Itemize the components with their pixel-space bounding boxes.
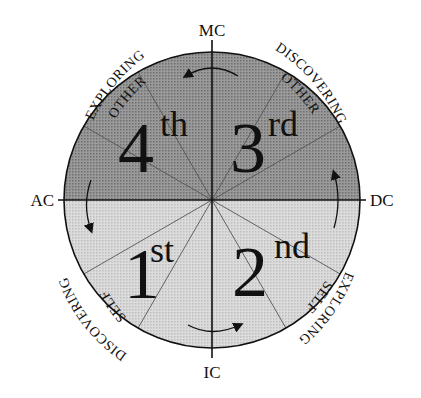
svg-text:2: 2 [232, 232, 268, 312]
axis-label-mc: MC [199, 21, 225, 40]
quadrant-wheel-diagram: MC IC AC DC 4 th 3 rd 1 st 2 nd EXPLORIN… [0, 0, 421, 398]
axis-label-dc: DC [370, 191, 394, 210]
svg-text:4: 4 [118, 108, 154, 188]
svg-text:th: th [160, 104, 188, 144]
axis-label-ic: IC [204, 363, 221, 382]
svg-text:st: st [150, 230, 174, 270]
svg-text:3: 3 [230, 108, 266, 188]
svg-text:nd: nd [274, 226, 310, 266]
axis-label-ac: AC [30, 191, 54, 210]
svg-text:rd: rd [268, 104, 298, 144]
